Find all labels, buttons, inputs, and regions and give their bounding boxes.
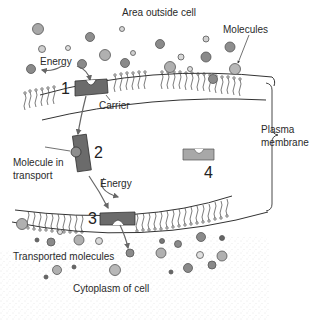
transport-arrow-1 [78, 96, 86, 134]
step-1-number: 1 [61, 81, 70, 97]
lower-membrane [12, 196, 268, 233]
label-energy-middle: Energy [100, 178, 132, 189]
label-plasma-membrane-line2: membrane [261, 137, 309, 148]
label-area-outside-cell: Area outside cell [122, 7, 196, 18]
label-molecule-in-transport-line2: transport [13, 170, 52, 181]
label-transported-molecules: Transported molecules [13, 251, 114, 262]
active-transport-diagram: Area outside cell Molecules Energy 1 Car… [0, 0, 320, 321]
step-3-number: 3 [88, 211, 97, 227]
molecule-in-transport [71, 147, 81, 157]
label-molecule-in-transport-line1: Molecule in [13, 157, 64, 168]
step-4-number: 4 [204, 165, 213, 181]
cytoplasm-region [0, 235, 270, 321]
label-carrier: Carrier [99, 100, 130, 111]
label-energy-top: Energy [40, 56, 72, 67]
label-plasma-membrane-line1: Plasma [261, 124, 294, 135]
label-cytoplasm: Cytoplasm of cell [73, 283, 149, 294]
step-2-number: 2 [94, 145, 103, 161]
label-molecules: Molecules [223, 24, 268, 35]
